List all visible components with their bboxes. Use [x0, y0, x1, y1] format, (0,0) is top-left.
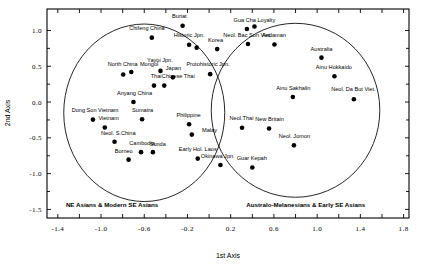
x-tick-label: -1.0 [95, 225, 108, 233]
data-point-label: Okinawa Jpn. [201, 153, 235, 159]
cluster-ellipse-1 [211, 23, 380, 197]
data-point [112, 139, 117, 144]
data-point-label: Neol.Thai [230, 115, 254, 121]
x-tick-label: -1.4 [51, 225, 64, 233]
data-point [195, 156, 200, 161]
data-point-label: Philippine [176, 112, 200, 118]
data-point [246, 42, 251, 47]
data-point-label: Japan [166, 65, 181, 71]
data-point [126, 157, 131, 162]
y-tick-label: 1.0 [32, 27, 42, 35]
data-point [187, 122, 192, 127]
data-point-label: Ainu Sakhalin [276, 85, 310, 91]
data-point [208, 72, 213, 77]
data-point-label: Gua Cha [234, 17, 257, 23]
data-point [91, 117, 96, 122]
x-axis-title: 1st Axis [216, 252, 241, 259]
data-point [240, 126, 245, 131]
x-tick-label: 1.4 [355, 225, 365, 233]
scatter-plot-figure: BuriatChifeng ChinaHistoric Jpn.KoreaNor… [0, 0, 424, 265]
data-point [194, 45, 199, 50]
data-point [190, 132, 195, 137]
data-point-label: Loyalty [257, 17, 275, 23]
data-point-label: Sunda [150, 141, 167, 147]
data-point-label: Guar Kepah [237, 155, 267, 161]
data-point [187, 42, 192, 47]
data-point [218, 163, 223, 168]
data-point-label: Anyang China [117, 90, 153, 96]
data-point [121, 72, 126, 77]
data-point-label: North China [108, 61, 139, 67]
data-point-label: Yayoi Jpn. [147, 57, 173, 63]
data-point-label: Protohistoric Jpn. [186, 61, 230, 67]
data-point [162, 83, 167, 88]
x-tick-label: 1.0 [312, 225, 322, 233]
y-axis-title: 2nd Axis [4, 99, 11, 126]
axis-ticks [47, 9, 409, 218]
x-tick-label: 0.6 [269, 225, 279, 233]
data-point [150, 35, 155, 40]
data-point-label: Chifeng China [129, 25, 165, 31]
data-point [151, 150, 156, 155]
plot-frame [47, 9, 409, 218]
data-point [252, 24, 257, 29]
data-point [139, 150, 144, 155]
data-point-label: Vietnam [98, 115, 119, 121]
data-point [319, 55, 324, 60]
data-point [152, 83, 157, 88]
data-point [292, 143, 297, 148]
data-point [140, 117, 145, 122]
y-tick-label: 0.5 [32, 63, 42, 71]
y-tick-label: -1.5 [29, 206, 42, 214]
data-point-label: Sumatra [132, 107, 154, 113]
x-tick-label: 0.2 [226, 225, 236, 233]
x-tick-label: 1.8 [399, 225, 409, 233]
data-point-label: Borneo [115, 148, 133, 154]
data-point-label: New Britain [255, 116, 284, 122]
y-tick-label: -1.0 [29, 170, 42, 178]
data-point [250, 165, 255, 170]
data-point-label: Neol. S.China [101, 130, 136, 136]
y-tick-label: -0.5 [29, 134, 42, 142]
data-point [131, 100, 136, 105]
data-point-label: Neol. Da But Viet. [331, 86, 376, 92]
data-point-label: Ainu Hokkaido [316, 64, 352, 70]
data-point [352, 97, 357, 102]
data-point-label: Malay [202, 127, 217, 133]
data-point-label: Korea [208, 37, 224, 43]
point-labels: BuriatChifeng ChinaHistoric Jpn.KoreaNor… [72, 13, 376, 161]
data-point-label: Early Hol. Laos [179, 146, 217, 152]
data-point-label: Andaman [262, 32, 286, 38]
data-point-label: Australia [311, 46, 334, 52]
data-point [180, 24, 185, 29]
data-point [272, 42, 277, 47]
cluster-labels: NE Asians & Modern SE AsiansAustralo-Mel… [66, 201, 366, 208]
data-point-label: Chinese Thai [162, 73, 195, 79]
x-tick-label: -0.2 [181, 225, 194, 233]
data-point-label: Thai [151, 73, 162, 79]
x-tick-label: -0.6 [138, 225, 151, 233]
data-point [215, 47, 220, 52]
cluster-label: Australo-Melanesians & Early SE Asians [246, 201, 365, 208]
data-point-label: Dong Son Vietnam [72, 107, 119, 113]
data-point [129, 70, 134, 75]
data-point-label: Buriat [172, 13, 187, 19]
data-point [245, 27, 250, 32]
cluster-label: NE Asians & Modern SE Asians [66, 201, 159, 208]
data-point [267, 126, 272, 131]
y-tick-label: 0.0 [32, 99, 42, 107]
data-point [291, 95, 296, 100]
data-point [332, 74, 337, 79]
data-point-label: Historic Jpn. [174, 32, 205, 38]
data-point-label: Neol. Jomon [279, 133, 310, 139]
correspondence-analysis-scatter: BuriatChifeng ChinaHistoric Jpn.KoreaNor… [0, 0, 424, 265]
